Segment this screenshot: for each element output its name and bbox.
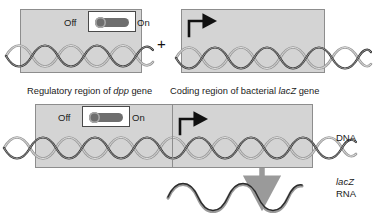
toggle-switch-icon-bottom[interactable] bbox=[82, 106, 130, 127]
gene-name-lacz: lacZ bbox=[279, 86, 297, 96]
dna-label: DNA bbox=[336, 133, 356, 143]
rna-gene-label: lacZ bbox=[336, 177, 354, 187]
caption-prefix: Regulatory region of bbox=[27, 86, 113, 96]
plus-symbol: + bbox=[157, 36, 166, 51]
dna-illustration-layer bbox=[0, 0, 373, 214]
switch-off-label-top: Off bbox=[64, 18, 77, 28]
caption-suffix: gene bbox=[296, 86, 319, 96]
dna-helix-top-right bbox=[176, 48, 371, 69]
switch-lever-top bbox=[95, 18, 129, 27]
switch-on-label-top: On bbox=[137, 18, 150, 28]
figure-canvas: Off On Off On Regulatory region of dpp g… bbox=[0, 0, 373, 214]
region-divider bbox=[172, 104, 173, 168]
lever-pivot-knob bbox=[89, 112, 100, 123]
caption-suffix: gene bbox=[129, 86, 152, 96]
rna-label: RNA bbox=[336, 189, 356, 199]
coding-region-caption: Coding region of bacterial lacZ gene bbox=[170, 87, 319, 96]
toggle-switch-icon-top[interactable] bbox=[88, 11, 136, 32]
lever-pivot-knob bbox=[95, 17, 106, 28]
regulatory-region-caption: Regulatory region of dpp gene bbox=[27, 87, 152, 96]
caption-prefix: Coding region of bacterial bbox=[170, 86, 279, 96]
switch-on-label-bottom: On bbox=[132, 113, 145, 123]
switch-lever-bottom bbox=[89, 113, 123, 122]
dna-helix-top-left bbox=[6, 46, 153, 67]
lacz-rna-strand bbox=[168, 184, 302, 212]
switch-off-label-bottom: Off bbox=[58, 113, 71, 123]
dna-helix-bottom bbox=[4, 138, 356, 159]
transcription-start-arrow-icon-top bbox=[189, 21, 204, 36]
transcription-start-arrow-icon-bottom bbox=[180, 119, 195, 134]
gene-name-dpp: dpp bbox=[113, 86, 129, 96]
